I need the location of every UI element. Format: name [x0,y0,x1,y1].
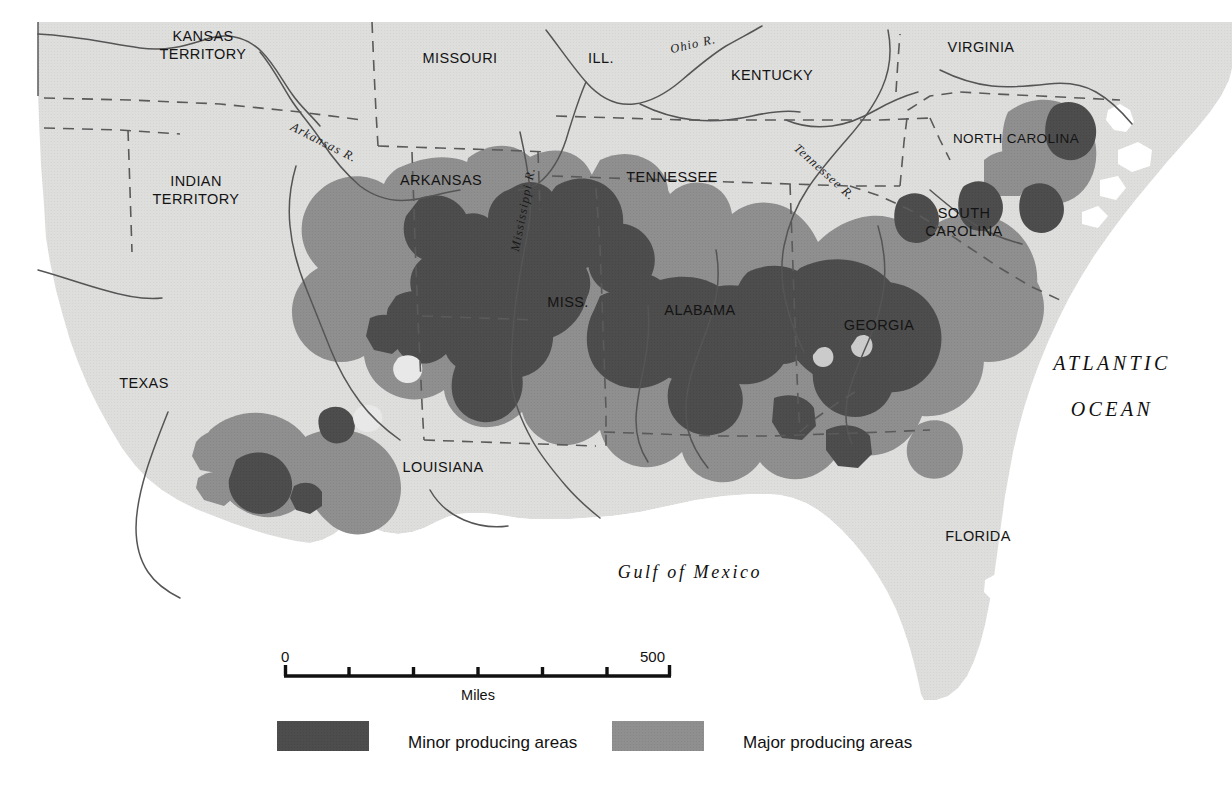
water-label-line: OCEAN [1071,398,1154,420]
state-label-virginia: VIRGINIA [948,39,1015,55]
scale-caption: Miles [461,687,495,703]
state-label-louisiana: LOUISIANA [403,459,484,475]
state-label-line: FLORIDA [945,528,1011,544]
legend-swatch-minor [277,721,369,751]
state-label-line: KANSAS [172,28,233,44]
map-canvas: KANSASTERRITORYINDIANTERRITORYMISSOURIIL… [0,0,1232,797]
state-label-arkansas: ARKANSAS [400,172,482,188]
scale-end-label: 500 [640,648,665,665]
state-label-kentucky: KENTUCKY [731,67,813,83]
state-label-line: ALABAMA [664,302,735,318]
state-label-alabama: ALABAMA [664,302,735,318]
state-label-north-carolina: NORTH CAROLINA [953,131,1079,146]
state-label-mississippi: MISS. [547,294,588,310]
state-label-line: ARKANSAS [400,172,482,188]
state-label-line: INDIAN [170,173,222,189]
legend-label-major: Major producing areas [743,733,912,752]
state-label-line: LOUISIANA [403,459,484,475]
legend-swatch-major [612,721,704,751]
state-label-tennessee: TENNESSEE [626,169,717,185]
state-label-texas: TEXAS [119,375,169,391]
state-label-line: TERRITORY [160,46,247,62]
state-label-line: GEORGIA [844,317,914,333]
state-label-line: TEXAS [119,375,169,391]
state-label-line: KENTUCKY [731,67,813,83]
state-label-line: NORTH CAROLINA [953,131,1079,146]
state-label-line: CAROLINA [925,223,1002,239]
state-label-missouri: MISSOURI [423,50,498,66]
legend-label-minor: Minor producing areas [408,733,577,752]
scale-start-label: 0 [281,648,289,665]
water-label-line: ATLANTIC [1051,352,1171,374]
state-label-line: MISS. [547,294,588,310]
state-label-illinois: ILL. [588,50,614,66]
state-label-line: MISSOURI [423,50,498,66]
map-figure: KANSASTERRITORYINDIANTERRITORYMISSOURIIL… [0,0,1232,797]
water-label-line: Gulf of Mexico [618,562,762,582]
state-label-line: SOUTH [938,205,991,221]
state-label-georgia: GEORGIA [844,317,914,333]
state-label-line: TENNESSEE [626,169,717,185]
state-label-line: TERRITORY [153,191,240,207]
state-label-florida: FLORIDA [945,528,1011,544]
water-label-gulf-of-mexico: Gulf of Mexico [618,562,762,582]
state-label-line: VIRGINIA [948,39,1015,55]
state-label-line: ILL. [588,50,614,66]
